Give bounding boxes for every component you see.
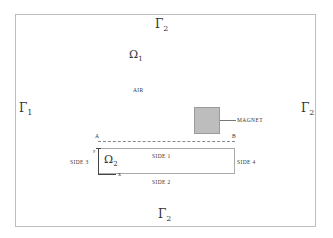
point-a-label: A [95,133,99,139]
gamma-subscript: 2 [309,108,314,117]
y-axis-line [98,149,99,175]
gamma-subscript: 1 [27,108,32,117]
omega-subscript: 2 [113,160,117,168]
omega-symbol: Ω [129,48,138,61]
gamma-top-label: Γ2 [155,17,168,33]
magnet-leader-line [220,120,236,121]
side3-label: SIDE 3 [70,159,89,165]
line-ab-dashed [98,141,235,142]
side1-label: SIDE 1 [152,153,171,159]
x-axis-label: x [118,171,121,177]
omega-symbol: Ω [104,153,113,166]
y-axis-arrow-icon [96,148,101,149]
gamma-bottom-label: Γ2 [158,207,171,223]
x-axis-line [98,174,116,175]
domain-boundary-frame [15,14,316,227]
gamma-right-label: Γ2 [301,101,314,117]
side4-label: SIDE 4 [237,159,256,165]
omega1-label: Ω1 [129,48,143,63]
side2-label: SIDE 2 [152,179,171,185]
gamma-left-label: Γ1 [19,101,32,117]
gamma-subscript: 2 [166,214,171,223]
omega2-label: Ω2 [104,153,118,168]
air-label: AIR [133,87,144,93]
point-b-label: B [232,133,236,139]
omega-subscript: 1 [138,55,142,63]
magnet-label: MAGNET [237,117,263,123]
gamma-subscript: 2 [163,24,168,33]
magnet-block [194,107,220,134]
y-axis-label: y [93,148,96,153]
